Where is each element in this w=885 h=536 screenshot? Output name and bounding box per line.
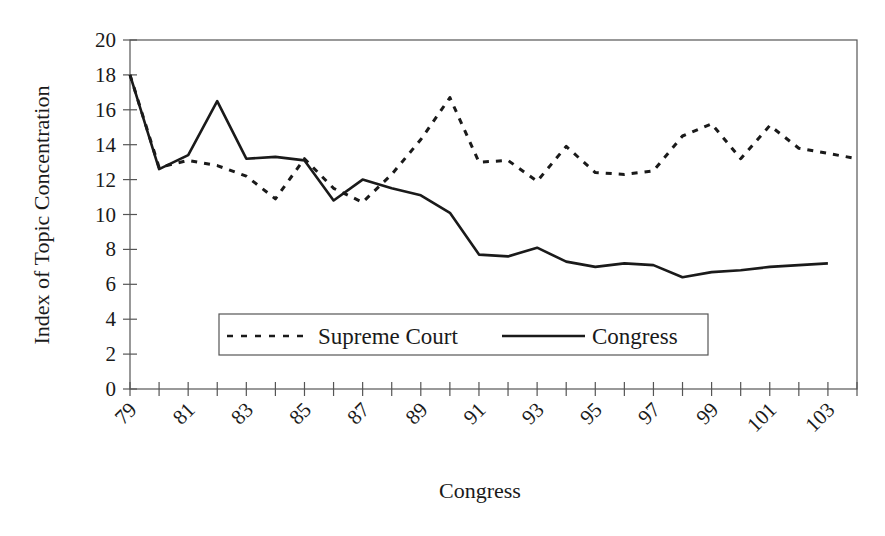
x-tick-label: 97 xyxy=(633,398,665,430)
x-tick-label: 93 xyxy=(517,398,549,430)
x-tick-label: 101 xyxy=(742,398,781,437)
x-tick-label: 81 xyxy=(168,398,200,430)
legend: Supreme CourtCongress xyxy=(219,314,708,355)
y-tick-label: 10 xyxy=(95,203,116,227)
x-tick-label: 95 xyxy=(575,398,607,430)
legend-label: Supreme Court xyxy=(318,324,459,349)
y-tick-label: 2 xyxy=(106,342,117,366)
x-axis-title: Congress xyxy=(439,478,521,503)
y-tick-label: 6 xyxy=(106,272,117,296)
x-axis: 7981838587899193959799101103 xyxy=(110,382,857,437)
series-congress xyxy=(130,75,828,277)
series-layer xyxy=(130,75,857,277)
legend-label: Congress xyxy=(592,324,678,349)
y-tick-label: 12 xyxy=(95,168,116,192)
y-tick-label: 18 xyxy=(95,63,116,87)
y-tick-label: 20 xyxy=(95,28,116,52)
x-tick-label: 79 xyxy=(110,398,142,430)
x-tick-label: 99 xyxy=(691,398,723,430)
y-tick-label: 4 xyxy=(106,307,117,331)
x-tick-label: 91 xyxy=(459,398,491,430)
x-tick-label: 85 xyxy=(284,398,316,430)
x-tick-label: 83 xyxy=(226,398,258,430)
y-tick-label: 0 xyxy=(106,377,117,401)
y-axis: 02468101214161820 xyxy=(95,28,137,401)
x-tick-label: 87 xyxy=(342,398,374,430)
x-tick-label: 89 xyxy=(401,398,433,430)
x-tick-label: 103 xyxy=(800,398,839,437)
y-tick-label: 8 xyxy=(106,237,117,261)
y-axis-title: Index of Topic Concentration xyxy=(29,86,54,345)
y-tick-label: 14 xyxy=(95,133,117,157)
series-supreme-court xyxy=(130,75,857,202)
y-tick-label: 16 xyxy=(95,98,116,122)
line-chart: 02468101214161820 7981838587899193959799… xyxy=(0,0,885,536)
